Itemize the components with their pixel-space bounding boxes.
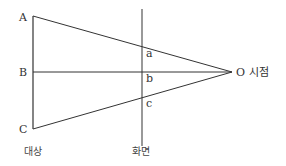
point-label-b-upper: B: [19, 66, 27, 79]
object-label: 대상: [24, 146, 42, 157]
screen-label: 화면: [132, 146, 150, 157]
point-label-a-upper: A: [18, 11, 28, 24]
viewpoint-label: O 시점: [236, 66, 269, 79]
sight-line-a: [33, 16, 232, 72]
perspective-diagram: A B C a b c O 시점 대상 화면: [0, 0, 286, 166]
point-label-a-lower: a: [146, 47, 153, 60]
point-label-c-upper: C: [19, 123, 27, 136]
sight-line-c: [33, 72, 232, 129]
point-label-b-lower: b: [146, 72, 153, 85]
point-label-c-lower: c: [146, 97, 152, 110]
